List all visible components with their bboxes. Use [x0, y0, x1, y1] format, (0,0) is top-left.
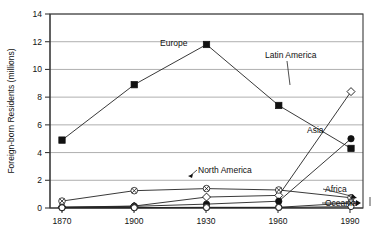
y-tick-label-12: 12: [33, 37, 43, 47]
data-point-europe-1960: [276, 102, 282, 108]
y-tick-label-10: 10: [33, 64, 43, 74]
data-point-oceania-1930: [204, 205, 210, 211]
data-point-asia-1990: [348, 136, 354, 142]
y-axis: [45, 14, 50, 208]
y-tick-label-0: 0: [37, 203, 42, 213]
data-point-asia-1960: [276, 198, 282, 204]
data-point-oceania-1870: [59, 205, 65, 211]
x-tick-label-1960: 1960: [269, 216, 288, 226]
x-tick-label-1900: 1900: [125, 216, 144, 226]
y-tick-label-14: 14: [33, 9, 43, 19]
x-tick-labels: 1870 1900 1930 1960 1990: [53, 216, 360, 226]
data-point-europe-1930: [203, 41, 209, 47]
y-tick-label-4: 4: [37, 148, 42, 158]
series-label-asia: Asia: [307, 125, 324, 135]
data-point-north-america-1930: [203, 185, 210, 192]
data-point-europe-1870: [59, 137, 65, 143]
x-tick-label-1990: 1990: [341, 216, 360, 226]
chart-container: 14 12 10 8 6 4 2 0 Foreign-born Resident…: [0, 0, 380, 240]
y-tick-label-6: 6: [37, 120, 42, 130]
data-point-north-america-1870: [59, 198, 66, 205]
data-point-north-america-1900: [131, 187, 138, 194]
data-point-oceania-1900: [131, 205, 137, 211]
series-label-north-america: North America: [198, 165, 252, 175]
series-label-europe: Europe: [160, 38, 188, 48]
line-chart: 14 12 10 8 6 4 2 0 Foreign-born Resident…: [0, 0, 380, 240]
y-tick-label-8: 8: [37, 92, 42, 102]
y-axis-title: Foreign-born Residents (millions): [6, 48, 16, 173]
series-label-latin-america: Latin America: [265, 50, 317, 60]
data-point-europe-1990: [348, 145, 354, 151]
y-tick-labels: 14 12 10 8 6 4 2 0: [33, 9, 43, 213]
y-tick-label-2: 2: [37, 175, 42, 185]
data-point-europe-1900: [131, 81, 137, 87]
x-tick-label-1930: 1930: [197, 216, 216, 226]
data-point-north-america-1960: [275, 187, 282, 194]
data-point-oceania-1960: [276, 204, 282, 210]
x-tick-label-1870: 1870: [53, 216, 72, 226]
